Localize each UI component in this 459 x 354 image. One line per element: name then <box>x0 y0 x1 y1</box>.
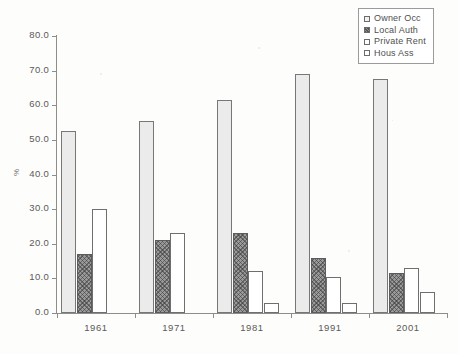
bar <box>139 121 154 313</box>
x-axis-label: 1991 <box>291 322 369 333</box>
x-axis-label: 1981 <box>213 322 291 333</box>
bar <box>233 233 248 313</box>
legend-item: Owner Occ <box>364 13 426 25</box>
bar <box>342 303 357 313</box>
legend-item: Local Auth <box>364 25 426 37</box>
bar <box>217 100 232 313</box>
y-tick-label: 10.0 <box>29 271 49 282</box>
y-axis-tick: 0.0 <box>0 313 57 314</box>
x-tick-mark <box>291 313 292 318</box>
chart-legend: Owner Occ Local Auth Private Rent Hous A… <box>358 8 434 64</box>
x-tick-mark <box>213 313 214 318</box>
y-tick-label: 30.0 <box>29 202 49 213</box>
legend-item-label: Local Auth <box>374 26 418 35</box>
legend-swatch-icon <box>364 50 370 56</box>
y-tick-label: 50.0 <box>29 133 49 144</box>
y-tick-label: 70.0 <box>29 64 49 75</box>
y-axis-tick: 30.0 <box>0 209 57 210</box>
bar <box>295 74 310 313</box>
x-tick-mark <box>369 313 370 318</box>
y-tick-label: 60.0 <box>29 98 49 109</box>
bar <box>420 292 435 313</box>
y-tick-label: 80.0 <box>29 29 49 40</box>
legend-item: Hous Ass <box>364 48 426 60</box>
x-axis-label: 1961 <box>57 322 135 333</box>
bar <box>170 233 185 313</box>
bar-chart: % 0.010.020.030.040.050.060.070.080.0 19… <box>0 0 459 354</box>
legend-item-label: Private Rent <box>374 37 426 46</box>
bar <box>311 258 326 313</box>
y-axis-tick: 20.0 <box>0 244 57 245</box>
bar <box>389 273 404 313</box>
x-axis-label: 2001 <box>369 322 447 333</box>
y-tick-label: 40.0 <box>29 168 49 179</box>
legend-swatch-icon <box>364 16 370 22</box>
y-tick-label: 0.0 <box>35 306 49 317</box>
y-axis-tick: 40.0 <box>0 175 57 176</box>
y-axis-tick: 60.0 <box>0 105 57 106</box>
y-axis-tick: 10.0 <box>0 278 57 279</box>
y-axis-tick: 70.0 <box>0 71 57 72</box>
x-axis-line <box>56 313 447 314</box>
x-tick-mark <box>447 313 448 318</box>
x-tick-mark <box>57 313 58 318</box>
y-axis-tick: 80.0 <box>0 36 57 37</box>
plot-area <box>57 36 447 313</box>
legend-item: Private Rent <box>364 36 426 48</box>
bar <box>155 240 170 313</box>
x-tick-mark <box>135 313 136 318</box>
legend-swatch-icon <box>364 27 370 33</box>
legend-item-label: Hous Ass <box>374 49 414 58</box>
bar <box>248 271 263 313</box>
legend-swatch-icon <box>364 39 370 45</box>
y-axis-tick: 50.0 <box>0 140 57 141</box>
bar <box>404 268 419 313</box>
x-axis-label: 1971 <box>135 322 213 333</box>
bar <box>61 131 76 313</box>
y-tick-label: 20.0 <box>29 237 49 248</box>
bar <box>326 277 341 313</box>
legend-item-label: Owner Occ <box>374 14 421 23</box>
bar <box>77 254 92 313</box>
bar <box>92 209 107 313</box>
bar <box>373 79 388 313</box>
bar <box>264 303 279 313</box>
